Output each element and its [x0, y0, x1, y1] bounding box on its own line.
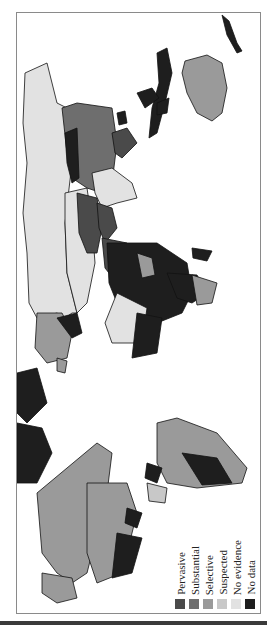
legend-swatch-pervasive — [175, 599, 185, 609]
region-colombia — [147, 483, 167, 503]
bottom-strip — [0, 621, 267, 625]
region-mexico — [112, 533, 142, 578]
region-madagascar — [192, 248, 212, 261]
legend-item-pervasive: Pervasive — [175, 509, 187, 609]
legend: Pervasive Substantial Selective Suspecte… — [175, 509, 259, 609]
map-frame: Pervasive Substantial Selective Suspecte… — [16, 12, 261, 614]
region-korea — [117, 111, 127, 125]
legend-item-selective: Selective — [203, 509, 215, 609]
legend-swatch-selective — [203, 599, 213, 609]
legend-swatch-no-evidence — [231, 599, 241, 609]
legend-item-no-data: No data — [245, 509, 257, 609]
legend-label: No data — [245, 560, 257, 595]
region-uk — [57, 358, 67, 373]
legend-label: Selective — [203, 555, 215, 595]
legend-swatch-no-data — [245, 599, 255, 609]
legend-swatch-suspected — [217, 599, 227, 609]
legend-label: No evidence — [231, 540, 243, 595]
region-greenland — [17, 423, 52, 483]
region-africa-sahel — [132, 313, 162, 358]
legend-label: Pervasive — [175, 552, 187, 595]
legend-swatch-substantial — [189, 599, 199, 609]
legend-item-suspected: Suspected — [217, 509, 229, 609]
region-nz — [222, 15, 242, 53]
region-scandinavia — [17, 368, 47, 423]
region-south-asia — [92, 168, 137, 208]
legend-item-substantial: Substantial — [189, 509, 201, 609]
region-australia — [182, 55, 227, 121]
legend-label: Substantial — [189, 546, 201, 595]
legend-item-no-evidence: No evidence — [231, 509, 243, 609]
region-se-asia — [112, 128, 137, 158]
legend-label: Suspected — [217, 550, 229, 595]
